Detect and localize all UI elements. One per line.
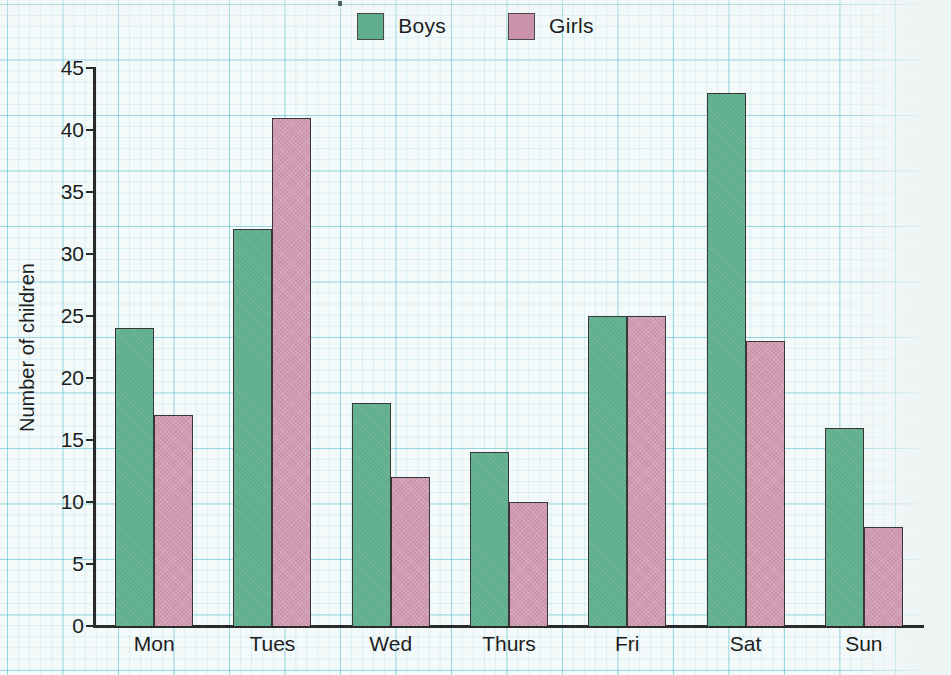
y-axis-title-text: Number of children [16,263,39,432]
y-tick-label-35: 35 [61,180,84,204]
y-tick-mark-35 [86,191,95,193]
legend-swatch-boys-icon [357,13,384,40]
chart-legend: Boys Girls [0,8,951,44]
y-tick-label-15: 15 [61,428,84,452]
y-tick-mark-10 [86,501,95,503]
x-tick-label-mon: Mon [95,632,213,666]
legend-entry-boys: Boys [357,13,446,40]
bar-group-sun [805,68,923,626]
scan-artifact-speck [338,1,342,6]
chart-page: Boys Girls Number of children 0510152025… [0,0,951,675]
y-axis-title: Number of children [14,68,40,626]
legend-label-girls: Girls [549,14,594,38]
y-tick-label-20: 20 [61,366,84,390]
bar-group-wed [332,68,450,626]
legend-label-boys: Boys [398,14,446,38]
bar-group-tues [213,68,331,626]
y-tick-mark-40 [86,129,95,131]
legend-entry-girls: Girls [508,13,594,40]
plot-area: 051015202530354045 [95,68,923,626]
bar-thurs-boys [470,452,509,626]
y-tick-mark-25 [86,315,95,317]
y-tick-label-30: 30 [61,242,84,266]
bar-mon-boys [115,328,154,626]
x-tick-label-wed: Wed [332,632,450,666]
y-tick-mark-5 [86,563,95,565]
y-tick-label-5: 5 [72,552,84,576]
y-tick-mark-15 [86,439,95,441]
legend-swatch-girls-icon [508,13,535,40]
x-tick-label-fri: Fri [568,632,686,666]
bar-wed-boys [352,403,391,626]
y-tick-label-45: 45 [61,56,84,80]
bar-sat-girls [746,341,785,626]
bar-fri-boys [588,316,627,626]
bar-sun-girls [864,527,903,626]
y-tick-mark-20 [86,377,95,379]
y-tick-mark-0 [86,625,95,627]
y-tick-label-25: 25 [61,304,84,328]
bar-tues-girls [272,118,311,626]
bar-sat-boys [707,93,746,626]
bar-thurs-girls [509,502,548,626]
x-tick-label-thurs: Thurs [450,632,568,666]
y-tick-mark-45 [86,67,95,69]
y-tick-label-10: 10 [61,490,84,514]
bar-tues-boys [233,229,272,626]
bar-group-mon [95,68,213,626]
bar-group-sat [686,68,804,626]
x-axis-tick-labels: MonTuesWedThursFriSatSun [95,632,923,666]
bar-sun-boys [825,428,864,626]
y-tick-label-40: 40 [61,118,84,142]
bar-group-thurs [450,68,568,626]
bar-groups [95,68,923,626]
x-tick-label-sat: Sat [686,632,804,666]
x-tick-label-sun: Sun [805,632,923,666]
x-tick-label-tues: Tues [213,632,331,666]
bar-wed-girls [391,477,430,626]
y-tick-mark-30 [86,253,95,255]
bar-fri-girls [627,316,666,626]
bar-mon-girls [154,415,193,626]
bar-group-fri [568,68,686,626]
y-tick-label-0: 0 [72,614,84,638]
